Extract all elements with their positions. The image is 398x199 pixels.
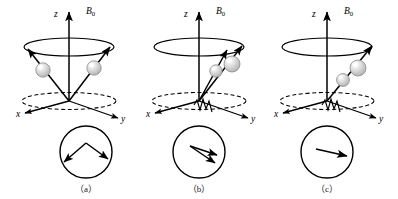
rf-pulse-wave — [194, 99, 212, 112]
spin-sphere-lower — [337, 74, 350, 87]
panel-label-b: （b） — [188, 184, 211, 194]
spin-sphere-inner — [210, 65, 222, 77]
b0-field-label: B0 — [216, 6, 226, 17]
sum-arrow-1 — [64, 143, 86, 162]
panel-a: z x y B0 （a） — [15, 6, 126, 194]
rf-pulse-wave — [322, 99, 340, 112]
sum-arrow-2 — [190, 146, 215, 163]
panel-c: z x y B0 （c） — [273, 6, 384, 194]
sum-arrow-2 — [86, 143, 108, 159]
b0-field-label: B0 — [344, 6, 354, 17]
y-axis-label: y — [250, 114, 256, 124]
z-axis-label: z — [183, 9, 188, 19]
z-axis-label: z — [53, 9, 58, 19]
y-axis-label: y — [378, 114, 384, 124]
sum-arrow-1 — [316, 149, 347, 156]
b0-field-label: B0 — [86, 6, 96, 17]
x-axis — [25, 101, 69, 113]
panel-a-vector-sum — [60, 126, 112, 178]
panel-a-cone-diagram: z x y B0 — [15, 6, 126, 124]
spin-sphere-inner-highlight — [212, 67, 216, 71]
panel-label-c: （c） — [316, 184, 338, 194]
spin-sphere-upper-highlight — [352, 62, 357, 67]
panel-b-vector-sum — [173, 126, 225, 178]
panel-c-vector-sum — [301, 126, 353, 178]
x-axis — [283, 101, 327, 113]
x-axis-label: x — [145, 109, 151, 119]
panel-label-a: （a） — [75, 184, 97, 194]
vector-sum-circle — [60, 126, 112, 178]
spin-sphere-outer — [224, 56, 240, 72]
spin-sphere-lower-highlight — [339, 75, 343, 79]
spin-sphere-right — [87, 61, 101, 75]
z-axis-label: z — [311, 9, 316, 19]
panel-b: z x y B0 （b） — [145, 6, 256, 194]
spin-sphere-left — [36, 63, 50, 77]
spin-sphere-left-highlight — [38, 65, 43, 70]
spin-sphere-upper — [350, 60, 366, 76]
x-axis-label: x — [15, 109, 21, 119]
sum-arrow-1 — [190, 146, 217, 155]
panel-b-cone-diagram: z x y B0 — [145, 6, 256, 124]
x-axis — [155, 101, 199, 113]
panel-c-cone-diagram: z x y B0 — [273, 6, 384, 124]
spin-sphere-outer-highlight — [226, 58, 231, 63]
figure-root: z x y B0 （a） — [0, 0, 398, 199]
spin-sphere-right-highlight — [89, 63, 94, 68]
y-axis-label: y — [120, 114, 126, 124]
x-axis-label: x — [273, 109, 279, 119]
spin-precession-figure: z x y B0 （a） — [0, 0, 398, 199]
